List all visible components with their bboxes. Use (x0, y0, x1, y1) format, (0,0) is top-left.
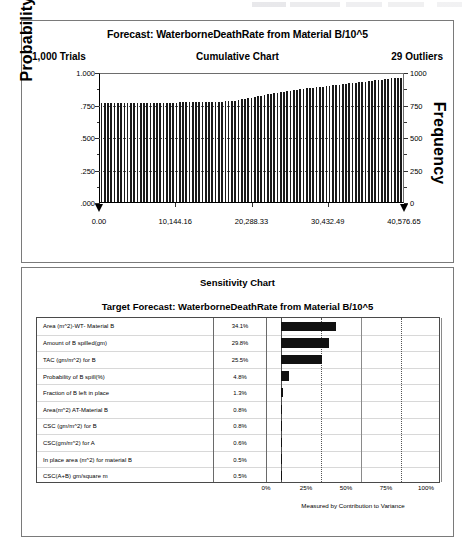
assumption-name: TAC (gm/m^2) for B (43, 357, 96, 363)
y-tick-label-right: 1000 (410, 69, 444, 78)
cumulative-bar (101, 103, 103, 202)
cumulative-bar (316, 87, 318, 202)
assumption-name: Area (m^2)-WT- Material B (43, 323, 114, 329)
assumption-name: CSC (gm/m^2) for B (43, 423, 97, 429)
cumulative-bar (368, 81, 370, 202)
x-tick-label: 25% (300, 484, 312, 491)
sensitivity-bar (281, 405, 282, 415)
cumulative-bar (117, 103, 119, 202)
scan-page-header-artifact (252, 2, 462, 7)
cumulative-bar (192, 102, 194, 202)
x-tick-label: 75% (380, 484, 392, 491)
cumulative-bar (299, 89, 301, 202)
cumulative-bar (130, 103, 132, 202)
y-axis-label-probability: Probability (18, 0, 36, 99)
contribution-percent: 0.5% (219, 457, 261, 463)
range-grabber-left[interactable] (95, 204, 103, 212)
gridline (441, 318, 442, 482)
contribution-percent: 0.6% (219, 440, 261, 446)
cumulative-bar (228, 101, 230, 202)
cumulative-bar (273, 93, 275, 202)
cumulative-bar (371, 81, 373, 202)
x-tick-label: 40,576.65 (387, 217, 420, 226)
cumulative-bar (225, 101, 227, 202)
cumulative-bar (329, 86, 331, 202)
cumulative-bar (244, 99, 246, 202)
assumption-name: Fraction of B left in place (43, 390, 109, 396)
cumulative-bar (241, 99, 243, 202)
cumulative-bar (348, 83, 350, 202)
cumulative-bar (205, 102, 207, 202)
cumulative-bar (355, 83, 357, 202)
cumulative-bar (293, 90, 295, 202)
cumulative-bar (312, 88, 314, 202)
forecast-title: Forecast: WaterborneDeathRate from Mater… (22, 28, 453, 40)
y-tick-mark (95, 73, 99, 74)
x-tick-label: 50% (340, 484, 352, 491)
y-minor-tick (97, 122, 100, 123)
cumulative-bar (280, 92, 282, 202)
y-tick-label-right: 500 (410, 134, 444, 143)
y-tick-label-right: 750 (410, 101, 444, 110)
x-tick-mark (252, 203, 253, 207)
cumulative-bar (114, 103, 116, 202)
cumulative-bar (260, 96, 262, 202)
cumulative-bar (397, 78, 399, 202)
cumulative-bar (159, 103, 161, 202)
sensitivity-bar (281, 388, 283, 398)
cumulative-bar (264, 95, 266, 202)
cumulative-bar (215, 102, 217, 202)
cumulative-bar (342, 84, 344, 202)
cumulative-bar (400, 78, 402, 202)
cumulative-bar (124, 103, 126, 202)
assumption-name: Area(m^2) AT-Material B (43, 407, 108, 413)
contribution-percent: 1.3% (219, 390, 261, 396)
cumulative-bar (358, 82, 360, 202)
forecast-chart-panel: Forecast: WaterborneDeathRate from Mater… (21, 20, 454, 263)
cumulative-bar (303, 89, 305, 202)
sensitivity-footer: Measured by Contribution to Variance (266, 502, 440, 509)
sensitivity-bar (281, 454, 282, 464)
x-tick-label: 10,144.16 (159, 217, 192, 226)
gridline (361, 318, 362, 482)
cumulative-bar (290, 91, 292, 202)
column-separator-name (213, 318, 214, 482)
cumulative-bar (339, 85, 341, 202)
cumulative-bar (231, 101, 233, 202)
chart-type-label: Cumulative Chart (22, 51, 453, 62)
cumulative-bar (120, 103, 122, 202)
cumulative-bar (146, 103, 148, 202)
y-tick-mark-right (404, 73, 408, 74)
assumption-name: In place area (m^2) for material B (43, 457, 132, 463)
sensitivity-table: Area (m^2)-WT- Material B34.1%Amount of … (36, 317, 440, 483)
sensitivity-plot-area (267, 318, 439, 482)
y-tick-label-right: 0 (410, 199, 444, 208)
cumulative-bar (110, 103, 112, 202)
y-minor-tick (97, 154, 100, 155)
contribution-percent: 0.8% (219, 423, 261, 429)
y-tick-mark (95, 106, 99, 107)
cumulative-bar (365, 82, 367, 202)
cumulative-bar (270, 94, 272, 202)
cumulative-bar (104, 103, 106, 202)
sensitivity-bar (281, 355, 322, 365)
cumulative-bar (140, 103, 142, 202)
range-grabber-right[interactable] (400, 204, 408, 212)
y-tick-mark-right (404, 171, 408, 172)
report-page: Forecast: WaterborneDeathRate from Mater… (0, 0, 474, 560)
cumulative-bar (163, 103, 165, 202)
cumulative-bar (234, 101, 236, 203)
cumulative-bar (189, 102, 191, 202)
cumulative-bar (153, 103, 155, 202)
cumulative-bar (267, 94, 269, 202)
cumulative-bar (332, 85, 334, 202)
y-minor-tick (97, 89, 100, 90)
sensitivity-bar (281, 471, 282, 481)
cumulative-bar (374, 80, 376, 202)
assumption-name: Probability of B spill(%) (43, 374, 105, 380)
y-tick-mark-right (404, 138, 408, 139)
y-tick-label-right: 250 (410, 166, 444, 175)
y-tick-label: .250 (61, 166, 95, 175)
sensitivity-bar (281, 371, 289, 381)
sensitivity-chart-panel: Sensitivity Chart Target Forecast: Water… (21, 267, 454, 537)
